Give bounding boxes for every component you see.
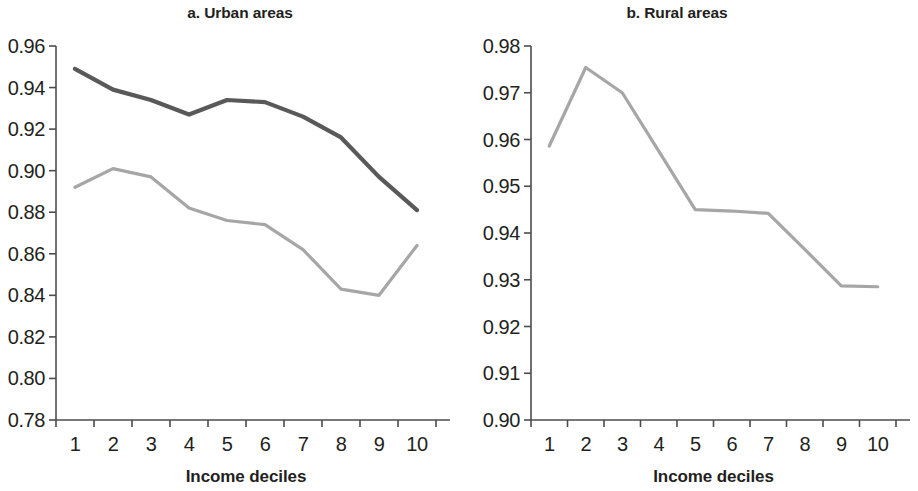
y-axis-tick-label: 0.95 <box>460 175 520 198</box>
x-axis-tick-label: 10 <box>867 433 888 456</box>
y-axis-tick-label: 0.80 <box>0 367 45 390</box>
data-line-lower-light-line <box>75 169 417 296</box>
y-axis-tick-label: 0.96 <box>0 35 45 58</box>
y-axis-tick-label: 0.84 <box>0 284 45 307</box>
x-axis-tick-label: 5 <box>690 433 701 456</box>
x-axis-tick-label: 7 <box>298 433 309 456</box>
x-axis-title: Income deciles <box>531 467 896 487</box>
y-axis-tick-label: 0.92 <box>0 118 45 141</box>
panel-b-plot <box>460 0 918 491</box>
y-axis-tick-label: 0.96 <box>460 128 520 151</box>
data-line-rural-line <box>549 68 878 287</box>
chart-panel-urban: a. Urban areas 0.960.940.920.900.880.860… <box>0 0 460 491</box>
chart-panel-rural: b. Rural areas 0.980.970.960.950.940.930… <box>460 0 918 491</box>
x-axis-tick-label: 1 <box>544 433 555 456</box>
y-axis-tick-label: 0.78 <box>0 409 45 432</box>
y-axis-tick-label: 0.90 <box>0 159 45 182</box>
y-axis-tick-label: 0.91 <box>460 362 520 385</box>
y-axis-tick-label: 0.88 <box>0 201 45 224</box>
x-axis-tick-label: 4 <box>184 433 195 456</box>
y-axis-tick-label: 0.94 <box>460 222 520 245</box>
y-axis-tick-label: 0.94 <box>0 76 45 99</box>
x-axis-tick-label: 2 <box>108 433 119 456</box>
x-axis-tick-label: 1 <box>70 433 81 456</box>
x-axis-tick-label: 6 <box>726 433 737 456</box>
data-line-upper-dark-line <box>75 69 417 210</box>
y-axis-tick-label: 0.93 <box>460 268 520 291</box>
y-axis-tick-label: 0.82 <box>0 325 45 348</box>
x-axis-tick-label: 8 <box>336 433 347 456</box>
x-axis-tick-label: 4 <box>653 433 664 456</box>
x-axis-title: Income deciles <box>56 467 436 487</box>
x-axis-tick-label: 5 <box>222 433 233 456</box>
x-axis-tick-label: 6 <box>260 433 271 456</box>
x-axis-tick-label: 3 <box>617 433 628 456</box>
x-axis-tick-label: 7 <box>763 433 774 456</box>
x-axis-tick-label: 8 <box>799 433 810 456</box>
x-axis-tick-label: 10 <box>406 433 427 456</box>
panel-a-plot <box>0 0 460 491</box>
y-axis-tick-label: 0.86 <box>0 242 45 265</box>
x-axis-tick-label: 9 <box>836 433 847 456</box>
x-axis-tick-label: 9 <box>374 433 385 456</box>
x-axis-tick-label: 3 <box>146 433 157 456</box>
figure-container: a. Urban areas 0.960.940.920.900.880.860… <box>0 0 918 491</box>
y-axis-tick-label: 0.97 <box>460 81 520 104</box>
y-axis-tick-label: 0.98 <box>460 35 520 58</box>
y-axis-tick-label: 0.90 <box>460 409 520 432</box>
y-axis-tick-label: 0.92 <box>460 315 520 338</box>
x-axis-tick-label: 2 <box>580 433 591 456</box>
